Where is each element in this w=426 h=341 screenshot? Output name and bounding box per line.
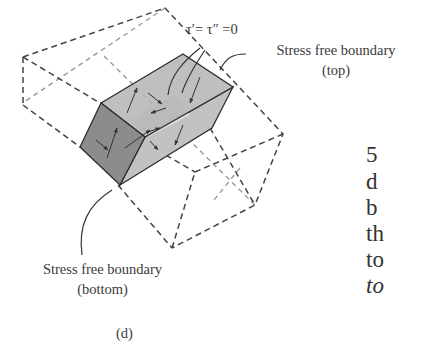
bottom-boundary-label: Stress free boundary (bottom) bbox=[10, 262, 195, 296]
body-text-fragment: th bbox=[366, 222, 384, 245]
body-text-fragment: d bbox=[366, 170, 378, 193]
body-text-fragment: 5 bbox=[366, 143, 378, 166]
bottom-boundary-label-line1: Stress free boundary bbox=[10, 262, 195, 277]
top-boundary-label: Stress free boundary (top) bbox=[246, 43, 426, 77]
panel-label: (d) bbox=[116, 326, 133, 341]
body-text-fragment: to bbox=[366, 248, 384, 271]
bottom-boundary-label-line2: (bottom) bbox=[10, 282, 195, 297]
body-text-fragment: b bbox=[366, 196, 378, 219]
equation-label: τ′= τ″ =0 bbox=[186, 22, 238, 37]
body-text-fragment: to bbox=[366, 274, 384, 297]
shaded-element bbox=[80, 54, 233, 185]
top-boundary-label-line1: Stress free boundary bbox=[246, 43, 426, 58]
top-boundary-label-line2: (top) bbox=[246, 63, 426, 78]
